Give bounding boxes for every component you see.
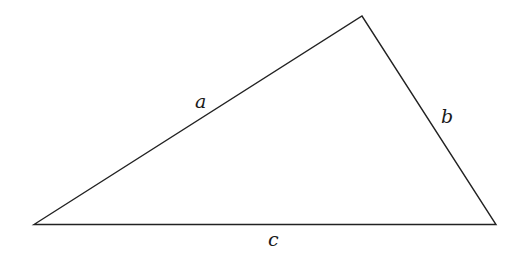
- side-c-label: c: [268, 228, 279, 250]
- triangle: [34, 16, 496, 225]
- side-b-label: b: [441, 105, 453, 127]
- triangle-diagram: a b c: [0, 0, 518, 255]
- side-a-label: a: [195, 90, 206, 112]
